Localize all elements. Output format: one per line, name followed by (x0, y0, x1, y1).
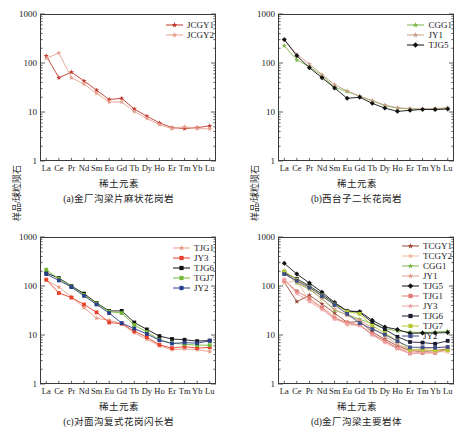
x-tick-labels-a: LaCePrNdSmEuGdTbDyHoErTmYbLu (40, 163, 216, 176)
legend-entry-TJG7[interactable]: TJG7 (402, 321, 452, 331)
data-point-JY3 (145, 335, 149, 339)
x-tick-Yb: Yb (429, 163, 442, 176)
legend-entry-TCGY2[interactable]: TCGY2 (402, 251, 452, 261)
legend-entry-TCGY1[interactable]: TCGY1 (402, 241, 452, 251)
x-tick-labels-c: LaCePrNdSmEuGdTbDyHoErTmYbLu (40, 386, 216, 399)
x-tick-Pr: Pr (303, 163, 316, 176)
data-point-JY2 (95, 303, 99, 307)
data-point-JY2 (208, 339, 212, 343)
data-point-JY3 (57, 291, 61, 295)
legend-label-JY2: JY2 (423, 331, 438, 341)
data-point-TJG6 (433, 342, 437, 346)
legend-label-JY3: JY3 (194, 253, 209, 263)
data-point-JY2 (170, 342, 174, 346)
legend-label-TGJ7: TGJ7 (194, 273, 214, 283)
legend-label-CGG1: CGG1 (428, 20, 452, 30)
legend-marker-icon-JY1 (402, 271, 419, 281)
x-axis-title-d: 稀土元素 (238, 399, 475, 413)
panel-c: 样品/球粒陨石 1000100101 TJG1JY3TJG6TGJ7JY2 La… (0, 223, 237, 446)
x-tick-Ce: Ce (53, 386, 66, 399)
y-tick-1: 1 (271, 379, 276, 389)
legend-entry-TJG5[interactable]: TJG5 (402, 281, 452, 291)
legend-entry-JY2[interactable]: JY2 (402, 331, 452, 341)
data-point-JY2 (107, 311, 111, 315)
y-tick-1000: 1000 (19, 232, 37, 242)
data-point-TJG5 (420, 107, 425, 112)
legend-label-JY2: JY2 (194, 283, 209, 293)
legend-label-TJG1: TJG1 (423, 291, 443, 301)
legend-label-TJG6: TJG6 (423, 311, 443, 321)
legend-entry-JY3[interactable]: JY3 (402, 301, 452, 311)
legend-entry-TJG6[interactable]: TJG6 (402, 311, 452, 321)
x-tick-Ce: Ce (291, 163, 304, 176)
data-point-JY2 (396, 339, 400, 343)
data-point-JY2 (57, 279, 61, 283)
legend-label-TJG7: TJG7 (423, 321, 443, 331)
plot-area-a: 样品/球粒陨石 1000100101 JCGY1JCGY2 (40, 14, 216, 161)
data-point-TJG6 (158, 334, 162, 338)
x-tick-Tm: Tm (416, 163, 429, 176)
legend-entry-TGJ7[interactable]: TGJ7 (173, 273, 214, 283)
data-point-JY2 (132, 327, 136, 331)
legend-label-CGG1: CGG1 (423, 261, 447, 271)
data-point-JCGY2 (195, 126, 200, 131)
data-point-TJG1 (207, 349, 212, 354)
legend-entry-JY3[interactable]: JY3 (173, 253, 214, 263)
x-tick-labels-d: LaCePrNdSmEuGdTbDyHoErTmYbLu (278, 386, 454, 399)
x-tick-Tb: Tb (128, 163, 141, 176)
x-tick-Sm: Sm (90, 386, 103, 399)
x-tick-Tm: Tm (178, 163, 191, 176)
data-point-JCGY2 (207, 126, 212, 131)
data-point-JY2 (70, 285, 74, 289)
legend-label-TJG6: TJG6 (194, 263, 214, 273)
legend-marker-icon-TCGY2 (402, 251, 419, 261)
y-tick-1: 1 (33, 379, 38, 389)
data-point-TJG6 (421, 341, 425, 345)
x-tick-Eu: Eu (103, 163, 116, 176)
legend-entry-TJG6[interactable]: TJG6 (173, 263, 214, 273)
x-tick-Tm: Tm (178, 386, 191, 399)
legend-entry-CGG1[interactable]: CGG1 (402, 261, 452, 271)
legend-entry-JY2[interactable]: JY2 (173, 283, 214, 293)
x-tick-Ho: Ho (391, 163, 404, 176)
x-tick-Tb: Tb (366, 386, 379, 399)
legend-marker-icon-JY2 (173, 283, 190, 293)
plot-area-d: 样品/球粒陨石 1000100101 TCGY1TCGY2CGG1JY1TJG5… (278, 237, 454, 384)
x-tick-Pr: Pr (303, 386, 316, 399)
panel-d: 样品/球粒陨石 1000100101 TCGY1TCGY2CGG1JY1TJG5… (238, 223, 475, 446)
legend-entry-JCGY2[interactable]: JCGY2 (166, 30, 214, 40)
series-line-JCGY2 (46, 53, 209, 129)
x-tick-Pr: Pr (65, 163, 78, 176)
x-tick-Sm: Sm (90, 163, 103, 176)
legend-d: TCGY1TCGY2CGG1JY1TJG5TJG1JY3TJG6TJG7JY2 (402, 241, 452, 341)
x-tick-Tb: Tb (128, 386, 141, 399)
x-tick-Eu: Eu (341, 163, 354, 176)
y-tick-100: 100 (24, 58, 38, 68)
caption-b: (b)西台子二长花岗岩 (238, 191, 475, 205)
legend-label-TCGY2: TCGY2 (423, 251, 452, 261)
legend-entry-JY1[interactable]: JY1 (402, 271, 452, 281)
legend-marker-icon-TJG5 (402, 281, 419, 291)
y-tick-10: 10 (28, 107, 37, 117)
legend-entry-JCGY1[interactable]: JCGY1 (166, 20, 214, 30)
x-tick-Yb: Yb (191, 163, 204, 176)
legend-marker-icon-JY3 (173, 253, 190, 263)
legend-label-JCGY1: JCGY1 (187, 20, 214, 30)
legend-marker-icon-JY2 (402, 331, 419, 341)
data-point-JY2 (295, 279, 299, 283)
data-point-TGJ7 (120, 311, 124, 315)
legend-entry-CGG1[interactable]: CGG1 (407, 20, 452, 30)
data-point-JY2 (158, 338, 162, 342)
data-point-TGJ7 (44, 268, 48, 272)
legend-entry-JY1[interactable]: JY1 (407, 30, 452, 40)
x-tick-Nd: Nd (316, 386, 329, 399)
y-tick-10: 10 (28, 330, 37, 340)
legend-entry-TJG1[interactable]: TJG1 (173, 243, 214, 253)
x-tick-Ce: Ce (291, 386, 304, 399)
data-point-JY3 (70, 296, 74, 300)
legend-entry-TJG5[interactable]: TJG5 (407, 40, 452, 50)
legend-marker-icon-TGJ7 (173, 273, 190, 283)
legend-entry-TJG1[interactable]: TJG1 (402, 291, 452, 301)
x-tick-Dy: Dy (141, 163, 154, 176)
series-line-TJG5 (284, 40, 447, 112)
